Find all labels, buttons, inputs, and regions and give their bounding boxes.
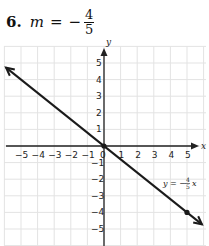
x-tick-label: 3 bbox=[152, 150, 158, 160]
x-tick-label: −3 bbox=[48, 150, 61, 160]
x-tick-label: −2 bbox=[65, 150, 78, 160]
y-tick-label: −3 bbox=[91, 191, 104, 201]
y-tick-label: −4 bbox=[91, 207, 105, 217]
equation-numerator: 4 bbox=[186, 176, 190, 183]
x-tick-label: −4 bbox=[32, 150, 46, 160]
equation-prefix: y = − bbox=[162, 179, 186, 188]
x-axis-label: x bbox=[201, 141, 206, 151]
y-axis-label: y bbox=[105, 37, 112, 47]
x-tick-label: 2 bbox=[135, 150, 141, 160]
y-tick-label: 2 bbox=[96, 108, 102, 118]
x-tick-label: 4 bbox=[168, 150, 174, 160]
x-tick-label: 5 bbox=[185, 150, 191, 160]
y-tick-label: −1 bbox=[91, 158, 104, 168]
equation-suffix: x bbox=[192, 179, 197, 188]
y-tick-label: −5 bbox=[91, 224, 104, 234]
x-axis-arrow-icon bbox=[191, 143, 199, 150]
marked-point bbox=[101, 143, 106, 148]
marked-point bbox=[184, 210, 189, 215]
y-tick-label: 4 bbox=[96, 75, 102, 85]
y-tick-label: −2 bbox=[91, 174, 104, 184]
y-tick-label: 1 bbox=[96, 124, 102, 134]
coordinate-plane: −5−4−3−2−101234554321−1−2−3−4−5 x y y = … bbox=[0, 0, 209, 246]
y-tick-label: 3 bbox=[96, 91, 102, 101]
y-tick-label: 5 bbox=[96, 58, 102, 68]
equation-label: y = − 4 5 x bbox=[162, 176, 197, 190]
x-tick-label: −5 bbox=[15, 150, 28, 160]
equation-denominator: 5 bbox=[186, 183, 190, 190]
y-axis-arrow-icon bbox=[101, 48, 108, 56]
